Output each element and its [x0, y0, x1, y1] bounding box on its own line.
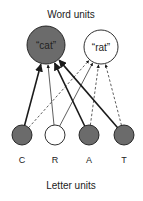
word-units: “cat”“rat”: [27, 26, 118, 64]
connection-c-to-cat: [25, 64, 41, 125]
letter-label-r: R: [52, 155, 59, 165]
word-letter-network-diagram: Word units “cat”“rat” CRAT Letter units: [0, 0, 143, 201]
letter-units-title: Letter units: [46, 180, 95, 191]
letter-unit-t: [114, 125, 134, 145]
letter-label-c: C: [19, 155, 26, 165]
word-label-rat: “rat”: [92, 42, 110, 53]
letter-unit-r: [45, 125, 65, 145]
connection-a-to-rat: [90, 65, 98, 125]
connection-r-to-rat: [60, 63, 93, 126]
letter-label-a: A: [86, 155, 92, 165]
letter-units: CRAT: [12, 125, 134, 165]
word-label-cat: “cat”: [36, 40, 56, 51]
connection-r-to-cat: [48, 65, 54, 125]
letter-unit-c: [12, 125, 32, 145]
connection-t-to-cat: [59, 60, 117, 127]
letter-label-t: T: [121, 155, 127, 165]
connections: [25, 60, 122, 127]
word-units-title: Word units: [47, 9, 95, 20]
letter-unit-a: [79, 125, 99, 145]
